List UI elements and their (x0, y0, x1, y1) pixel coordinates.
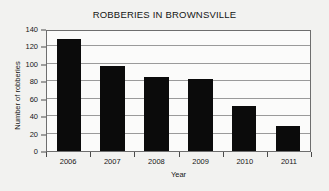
x-axis-tick-label: 2011 (267, 157, 311, 166)
x-axis-tick-label: 2007 (90, 157, 134, 166)
bar-2011 (276, 126, 301, 151)
bars-layer (47, 31, 310, 151)
y-axis-tick-label: 100 (25, 61, 38, 69)
bar-slot (178, 31, 222, 151)
x-axis-label: Year (46, 170, 311, 179)
x-axis-tick-mark (134, 152, 135, 157)
x-axis-tick-mark (90, 152, 91, 157)
x-axis-tick-mark (223, 152, 224, 157)
x-axis-tick-labels: 200620072008200920102011 (46, 157, 311, 166)
x-axis-tick-mark (179, 152, 180, 157)
y-axis-tick-mark (41, 99, 46, 100)
y-axis-tick-label: 20 (30, 131, 38, 139)
y-axis-tick-mark (41, 47, 46, 48)
bar-2007 (100, 66, 125, 151)
chart-title: ROBBERIES IN BROWNSVILLE (0, 9, 329, 20)
y-axis-tick-label: 40 (30, 113, 38, 121)
x-axis-tick-label: 2010 (223, 157, 267, 166)
x-axis-tick-mark (46, 152, 47, 157)
bar-2009 (188, 79, 213, 151)
y-axis-label: Number of robberies (13, 48, 22, 144)
y-axis-tick-mark (41, 30, 46, 31)
x-axis-tick-label: 2006 (46, 157, 90, 166)
y-axis-tick-label: 120 (25, 43, 38, 51)
y-axis-tick-mark (41, 117, 46, 118)
y-axis-tick-mark (41, 82, 46, 83)
x-axis-tick-label: 2009 (179, 157, 223, 166)
bar-chart-figure: ROBBERIES IN BROWNSVILLE 020406080100120… (0, 0, 329, 191)
y-axis-tick-label: 80 (30, 78, 38, 86)
bar-slot (135, 31, 179, 151)
bar-2010 (232, 106, 257, 151)
bar-2008 (144, 77, 169, 151)
y-axis-tick-mark (41, 64, 46, 65)
bar-slot (222, 31, 266, 151)
y-axis-tick-label: 0 (34, 148, 38, 156)
plot-area (46, 30, 311, 152)
x-axis-tick-label: 2008 (134, 157, 178, 166)
bar-slot (266, 31, 310, 151)
x-axis-tick-mark (311, 152, 312, 157)
bar-slot (47, 31, 91, 151)
bar-slot (91, 31, 135, 151)
bar-2006 (57, 39, 82, 151)
x-axis-tick-mark (267, 152, 268, 157)
y-axis-tick-label: 60 (30, 96, 38, 104)
y-axis-tick-label: 140 (25, 26, 38, 34)
y-axis-tick-mark (41, 134, 46, 135)
